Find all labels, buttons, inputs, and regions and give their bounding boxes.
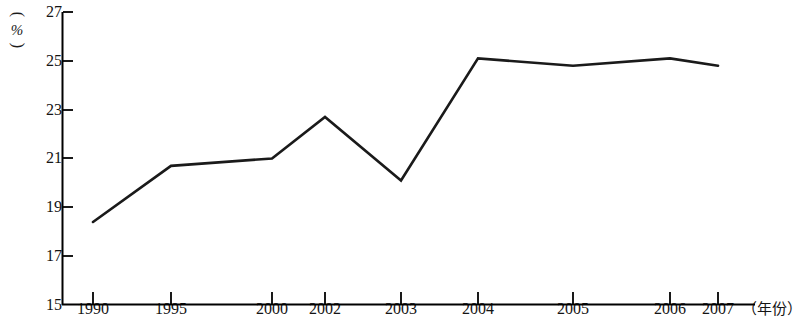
y-axis-ticks: [63, 12, 73, 256]
plot-area: [0, 0, 799, 323]
line-chart: ( % ) 27 25 23 21 19 17 15 1990 1995 200…: [0, 0, 799, 323]
data-series-line: [93, 58, 718, 222]
x-axis-ticks: [93, 292, 718, 304]
